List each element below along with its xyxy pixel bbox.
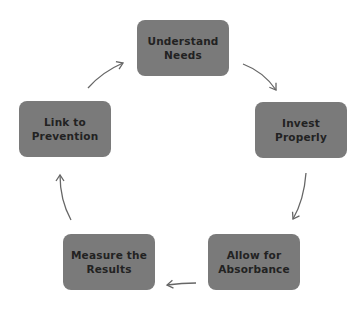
node-label-line1: Allow for (227, 248, 282, 262)
node-label-line2: Prevention (32, 129, 99, 143)
node-label-line1: Invest (282, 116, 320, 130)
cycle-diagram: Understand Needs Invest Properly Allow f… (0, 0, 363, 309)
arrow-absorbance-to-results (167, 283, 196, 285)
node-label-line1: Understand (147, 34, 218, 48)
arrow-results-to-prevention (60, 175, 71, 220)
node-label-line1: Measure the (71, 248, 147, 262)
node-understand-needs: Understand Needs (137, 20, 229, 76)
arrow-prevention-to-needs (88, 63, 123, 88)
node-label-line2: Needs (164, 48, 202, 62)
node-link-to-prevention: Link to Prevention (19, 101, 111, 157)
node-label-line2: Properly (275, 130, 327, 144)
node-allow-for-absorbance: Allow for Absorbance (208, 234, 300, 290)
node-measure-the-results: Measure the Results (63, 234, 155, 290)
node-label-line2: Absorbance (218, 262, 290, 276)
node-invest-properly: Invest Properly (255, 102, 347, 158)
arrow-invest-to-absorbance (293, 173, 306, 219)
node-label-line1: Link to (44, 115, 86, 129)
arrow-needs-to-invest (243, 64, 276, 90)
node-label-line2: Results (86, 262, 131, 276)
